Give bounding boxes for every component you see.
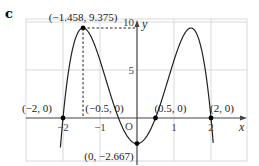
data-point xyxy=(81,26,86,31)
point-label: (2, 0) xyxy=(210,102,234,115)
origin-label: O xyxy=(125,120,133,132)
x-tick-label: 1 xyxy=(171,121,177,133)
data-point xyxy=(135,141,140,146)
x-axis-label: x xyxy=(238,120,245,134)
data-point xyxy=(61,116,66,121)
point-label: (0, −2.667) xyxy=(84,150,134,163)
y-tick-label: 10 xyxy=(123,16,135,28)
x-tick-label: −1 xyxy=(94,121,106,133)
tick-labels: −2−112510 xyxy=(57,16,214,133)
panel-label: c xyxy=(5,6,13,21)
data-point xyxy=(153,116,158,121)
point-label: (−2, 0) xyxy=(22,102,52,115)
point-label: (−1.458, 9.375) xyxy=(49,11,118,24)
y-axis-arrow-icon xyxy=(135,20,140,27)
point-labels: (−2, 0)(−0.5, 0)(0.5, 0)(2, 0)(0, −2.667… xyxy=(22,11,234,163)
x-tick-label: 2 xyxy=(208,121,214,133)
y-tick-label: 5 xyxy=(129,64,135,76)
point-label: (−0.5, 0) xyxy=(85,102,124,115)
y-axis-label: y xyxy=(141,17,148,31)
x-tick-label: −2 xyxy=(57,121,69,133)
data-point xyxy=(209,116,214,121)
point-label: (0.5, 0) xyxy=(154,102,186,115)
chart: c −2−112510 (−2, 0)(−0.5, 0)(0.5, 0)(2, … xyxy=(0,0,259,166)
